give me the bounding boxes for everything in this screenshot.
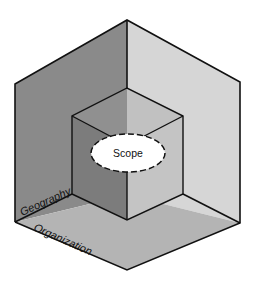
scope-cube-diagram: Scope Geography Organization — [0, 0, 254, 287]
scope-label: Scope — [113, 147, 143, 159]
